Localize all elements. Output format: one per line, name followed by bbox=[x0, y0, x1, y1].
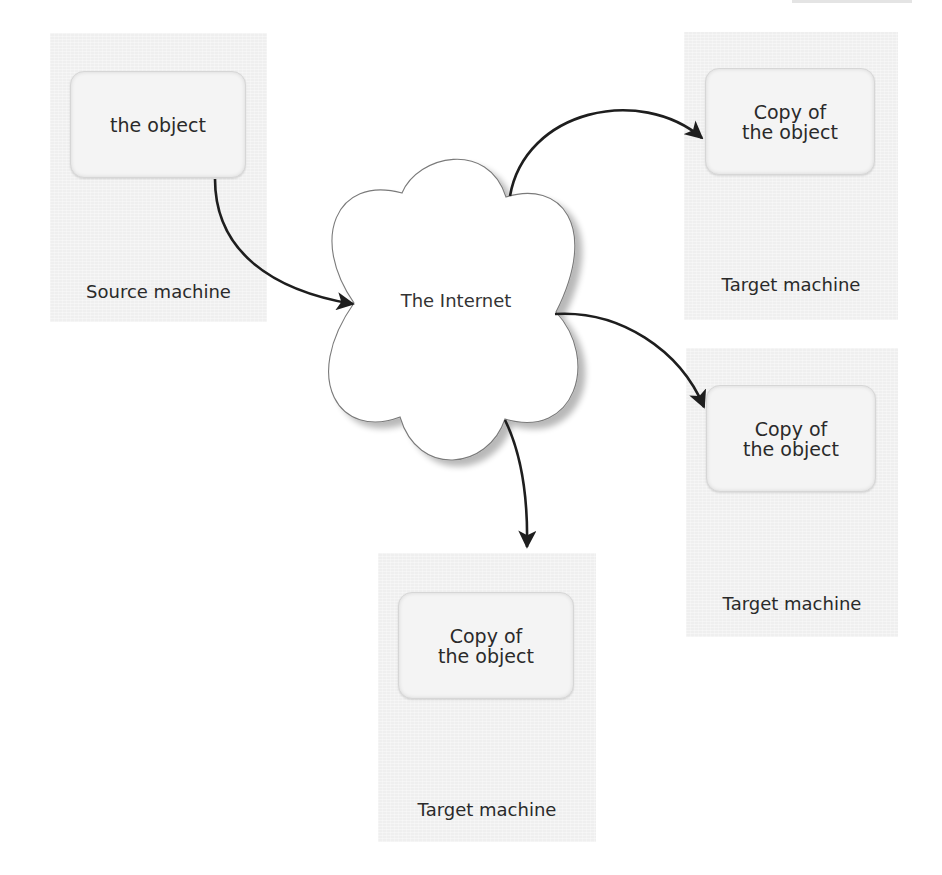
arrow-internet-to-target-top bbox=[510, 110, 702, 196]
diagram-graphics bbox=[0, 0, 942, 875]
arrow-internet-to-target-bottom bbox=[505, 420, 527, 547]
internet-label: The Internet bbox=[376, 290, 536, 311]
